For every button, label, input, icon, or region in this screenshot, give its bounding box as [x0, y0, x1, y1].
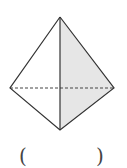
pyramid-diagram	[0, 0, 127, 168]
shaded-right-face	[60, 17, 114, 130]
answer-left-paren: (	[19, 146, 27, 166]
answer-right-paren: )	[96, 146, 104, 166]
